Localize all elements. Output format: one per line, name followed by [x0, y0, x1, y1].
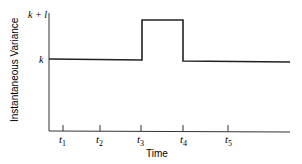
x-tick-t4: t4	[180, 133, 187, 148]
x-axis	[49, 131, 290, 132]
y-tick-k: k	[39, 54, 44, 65]
variance-step-line	[49, 20, 290, 62]
x-axis-title: Time	[146, 148, 168, 159]
x-ticks	[63, 125, 228, 131]
y-tick-k-plus-l: k + l	[28, 9, 47, 20]
x-tick-t2: t2	[96, 133, 103, 148]
y-axis-title: Instantaneous Variance	[9, 17, 20, 122]
x-tick-t3: t3	[137, 133, 144, 148]
x-tick-t1: t1	[59, 133, 66, 148]
step-chart: k + l k t1 t2 t3 t4 t5 Time Instantaneou…	[0, 0, 302, 164]
x-tick-t5: t5	[225, 133, 232, 148]
